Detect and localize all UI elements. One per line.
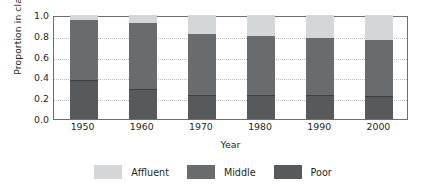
segment-divider bbox=[188, 95, 216, 96]
segment-divider bbox=[247, 95, 275, 96]
y-tick-label: 1.0 bbox=[18, 11, 49, 20]
bar-group[interactable] bbox=[247, 17, 275, 119]
bar-group[interactable] bbox=[70, 17, 98, 119]
legend-swatch-icon bbox=[187, 165, 215, 179]
segment-divider bbox=[306, 95, 334, 96]
x-axis-title: Year bbox=[53, 139, 408, 150]
legend-label: Affluent bbox=[131, 167, 169, 178]
legend-item[interactable]: Middle bbox=[187, 165, 256, 179]
bars-layer bbox=[54, 17, 407, 119]
bar-segment-middle[interactable] bbox=[365, 40, 393, 97]
legend-item[interactable]: Poor bbox=[274, 165, 332, 179]
bar-group[interactable] bbox=[365, 17, 393, 119]
x-axis-tick-labels: 195019601970198019902000 bbox=[53, 122, 408, 136]
x-tick-label: 1990 bbox=[307, 122, 331, 131]
bar-group[interactable] bbox=[129, 17, 157, 119]
bar-group[interactable] bbox=[188, 17, 216, 119]
x-tick-label: 1950 bbox=[71, 122, 95, 131]
bar-segment-affluent[interactable] bbox=[365, 15, 393, 40]
plot-area bbox=[53, 16, 408, 120]
x-tick-label: 1980 bbox=[248, 122, 272, 131]
x-tick-label: 1960 bbox=[130, 122, 154, 131]
x-tick-label: 1970 bbox=[189, 122, 213, 131]
y-tick-label: 0.8 bbox=[18, 32, 49, 41]
bar-segment-poor[interactable] bbox=[129, 90, 157, 119]
bar-segment-affluent[interactable] bbox=[188, 15, 216, 34]
bar-segment-middle[interactable] bbox=[129, 23, 157, 90]
legend-label: Poor bbox=[311, 167, 332, 178]
y-tick-label: 0.6 bbox=[18, 53, 49, 62]
bar-group[interactable] bbox=[306, 17, 334, 119]
bar-segment-poor[interactable] bbox=[247, 96, 275, 119]
legend-item[interactable]: Affluent bbox=[94, 165, 169, 179]
segment-divider bbox=[129, 89, 157, 90]
y-axis-tick-labels: 1.00.80.60.40.20.0 bbox=[18, 16, 49, 120]
bar-segment-poor[interactable] bbox=[188, 96, 216, 119]
bar-segment-middle[interactable] bbox=[188, 34, 216, 96]
chart-legend: AffluentMiddlePoor bbox=[0, 161, 426, 183]
bar-segment-affluent[interactable] bbox=[247, 15, 275, 36]
bar-segment-poor[interactable] bbox=[70, 81, 98, 119]
bar-segment-affluent[interactable] bbox=[70, 15, 98, 20]
x-tick-label: 2000 bbox=[366, 122, 390, 131]
y-tick-label: 0.4 bbox=[18, 74, 49, 83]
y-tick-label: 0.2 bbox=[18, 94, 49, 103]
bar-segment-affluent[interactable] bbox=[306, 15, 334, 38]
segment-divider bbox=[365, 96, 393, 97]
bar-segment-middle[interactable] bbox=[306, 38, 334, 96]
bar-segment-poor[interactable] bbox=[365, 97, 393, 119]
y-tick-label: 0.0 bbox=[18, 115, 49, 124]
legend-label: Middle bbox=[224, 167, 256, 178]
segment-divider bbox=[70, 80, 98, 81]
legend-swatch-icon bbox=[94, 165, 122, 179]
bar-segment-affluent[interactable] bbox=[129, 15, 157, 23]
legend-swatch-icon bbox=[274, 165, 302, 179]
stacked-bar-chart: Proportion in class 1.00.80.60.40.20.0 1… bbox=[0, 0, 426, 192]
bar-segment-middle[interactable] bbox=[247, 36, 275, 96]
bar-segment-middle[interactable] bbox=[70, 20, 98, 80]
bar-segment-poor[interactable] bbox=[306, 96, 334, 119]
